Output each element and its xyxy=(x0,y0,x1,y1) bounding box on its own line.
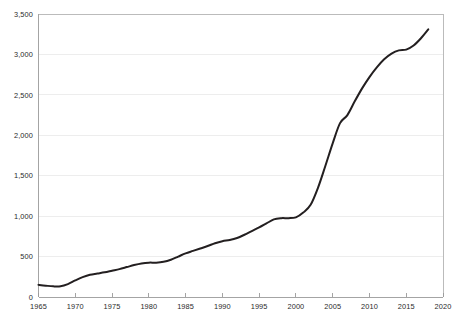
x-tick-label-2010: 2010 xyxy=(361,302,378,311)
y-tick-label-2500: 2,500 xyxy=(14,91,33,100)
x-tick-label-1995: 1995 xyxy=(251,302,268,311)
y-tick-label-2000: 2,000 xyxy=(14,131,33,140)
x-tick-label-1970: 1970 xyxy=(67,302,84,311)
y-tick-label-0: 0 xyxy=(29,293,33,302)
chart-background xyxy=(0,0,461,330)
y-tick-label-1000: 1,000 xyxy=(14,212,33,221)
x-tick-label-2015: 2015 xyxy=(398,302,415,311)
x-tick-label-1980: 1980 xyxy=(140,302,157,311)
x-tick-label-1965: 1965 xyxy=(30,302,47,311)
y-tick-label-3000: 3,000 xyxy=(14,50,33,59)
x-tick-label-1975: 1975 xyxy=(104,302,121,311)
y-tick-label-1500: 1,500 xyxy=(14,171,33,180)
y-tick-label-3500: 3,500 xyxy=(14,10,33,19)
x-tick-label-2020: 2020 xyxy=(435,302,452,311)
chart-canvas: 05001,0001,5002,0002,5003,0003,500 19651… xyxy=(0,0,461,330)
line-chart: 05001,0001,5002,0002,5003,0003,500 19651… xyxy=(0,0,461,330)
x-tick-label-1990: 1990 xyxy=(214,302,231,311)
x-tick-label-1985: 1985 xyxy=(177,302,194,311)
x-tick-label-2005: 2005 xyxy=(324,302,341,311)
y-tick-label-500: 500 xyxy=(20,252,33,261)
x-tick-label-2000: 2000 xyxy=(287,302,304,311)
